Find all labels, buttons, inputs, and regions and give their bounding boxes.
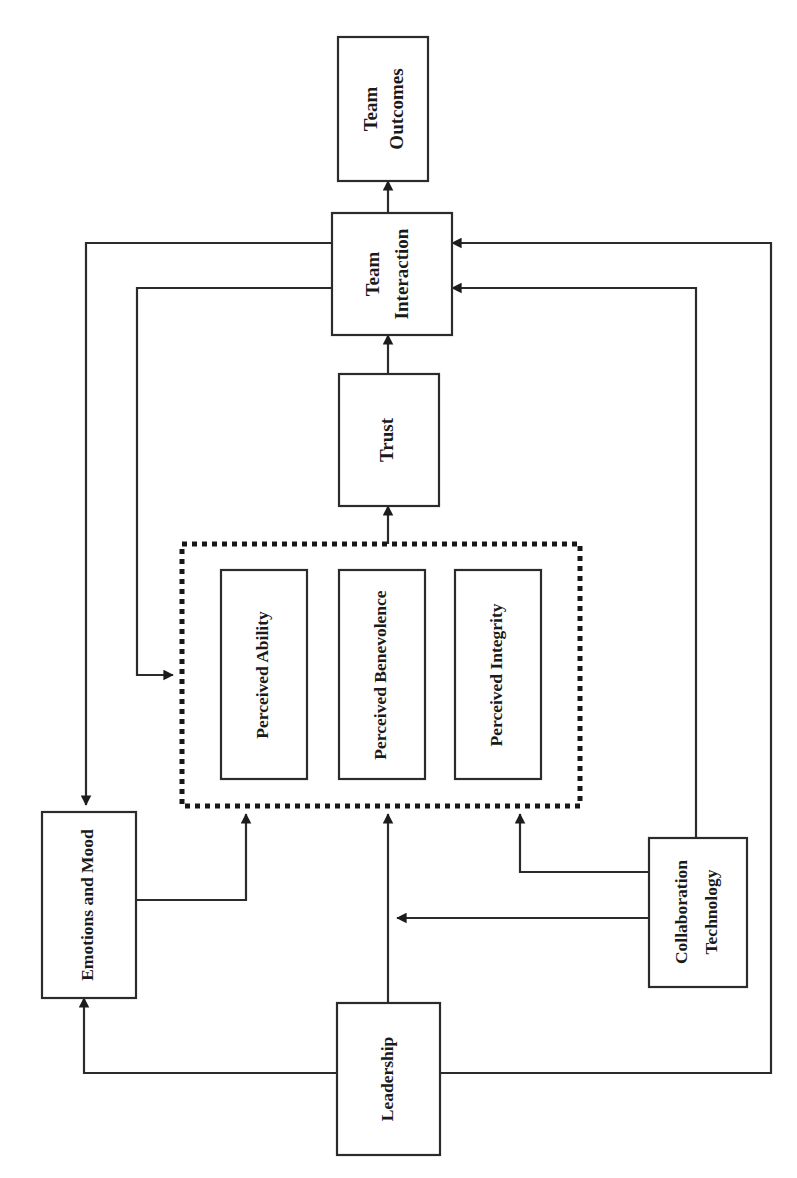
node-team-outcomes-label-line2: Outcomes [386,68,407,149]
node-emotions-and-mood-label: Emotions and Mood [77,829,97,981]
node-leadership[interactable]: Leadership [337,1003,440,1155]
node-team-interaction-label-line2: Interaction [391,228,412,319]
node-team-interaction[interactable]: Team Interaction [332,213,452,335]
node-collaboration-technology-label-line2: Technology [701,869,721,954]
node-trust[interactable]: Trust [339,374,439,506]
node-collaboration-technology[interactable]: Collaboration Technology [649,838,747,987]
edge-collaboration-technology-to-trustworthiness [520,814,649,872]
diagram-canvas: Team Outcomes Team Interaction Trust Per… [0,0,797,1178]
node-perceived-integrity-label: Perceived Integrity [486,603,506,746]
node-perceived-ability[interactable]: Perceived Ability [221,570,307,779]
edge-leadership-to-emotions-and-mood [84,998,337,1073]
node-team-outcomes[interactable]: Team Outcomes [338,37,428,181]
node-perceived-benevolence[interactable]: Perceived Benevolence [339,570,425,779]
node-team-interaction-label-line1: Team [362,251,383,296]
node-leadership-label: Leadership [377,1036,397,1121]
node-perceived-integrity[interactable]: Perceived Integrity [455,570,541,779]
node-perceived-ability-label: Perceived Ability [252,611,272,739]
node-collaboration-technology-label-line1: Collaboration [671,860,691,964]
research-model-diagram: Team Outcomes Team Interaction Trust Per… [0,0,797,1178]
node-trust-label: Trust [376,417,397,462]
node-perceived-benevolence-label: Perceived Benevolence [370,590,390,759]
node-emotions-and-mood[interactable]: Emotions and Mood [42,812,136,998]
edge-emotions-and-mood-to-trustworthiness [136,814,246,900]
node-team-outcomes-label-line1: Team [360,86,381,131]
